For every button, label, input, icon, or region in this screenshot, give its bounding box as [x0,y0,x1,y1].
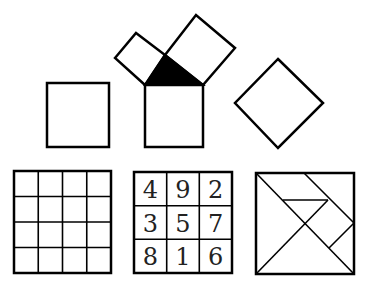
figure-canvas: 4 9 2 3 5 7 8 1 6 [0,0,367,285]
magic-cell: 3 [143,210,158,238]
magic-cell: 4 [143,176,158,204]
magic-cell: 6 [208,243,223,271]
magic-cell: 5 [175,210,190,238]
magic-cell: 2 [208,176,223,204]
pythagoras-figure [115,15,235,147]
magic-cell: 9 [175,176,190,204]
magic-square: 4 9 2 3 5 7 8 1 6 [134,172,232,273]
rotated-square [235,59,323,148]
tangram [256,173,354,274]
magic-cell: 1 [175,243,190,271]
four-by-four-grid [14,171,111,273]
hypotenuse-square [145,85,203,147]
left-square [47,83,109,147]
magic-cell: 7 [208,210,223,238]
magic-cell: 8 [143,243,158,271]
